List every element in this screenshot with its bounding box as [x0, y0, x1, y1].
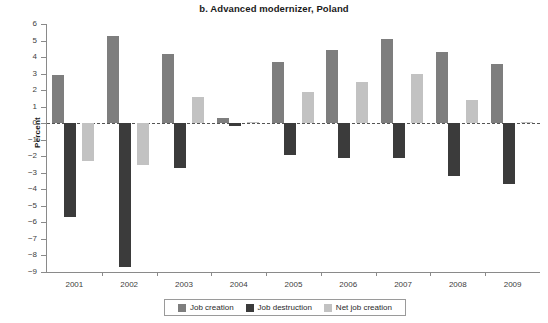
y-axis-tick-label: −6 — [0, 218, 37, 226]
y-axis-tick — [41, 206, 46, 207]
x-axis-tick — [376, 272, 377, 276]
y-axis-tick — [41, 57, 46, 58]
y-axis-tick — [41, 140, 46, 141]
y-axis-tick-label: −7 — [0, 235, 37, 243]
bar-net-2001 — [82, 123, 94, 161]
x-axis-tick-label: 2005 — [269, 280, 319, 289]
y-axis-tick-label: −3 — [0, 169, 37, 177]
y-axis-tick — [41, 255, 46, 256]
legend-label-job-destruction: Job destruction — [258, 303, 312, 312]
y-axis-tick — [41, 239, 46, 240]
y-axis-tick — [41, 74, 46, 75]
bar-destruction-2007 — [393, 123, 405, 158]
chart-title: b. Advanced modernizer, Poland — [0, 3, 548, 15]
bar-net-2003 — [192, 97, 204, 123]
bar-net-2007 — [411, 74, 423, 124]
bar-destruction-2003 — [174, 123, 186, 168]
y-axis-tick — [41, 24, 46, 25]
x-axis-tick-label: 2004 — [214, 280, 264, 289]
y-axis-tick — [41, 222, 46, 223]
y-axis-tick-label: −9 — [0, 268, 37, 276]
chart-figure: b. Advanced modernizer, Poland Percent 6… — [0, 0, 548, 323]
x-axis-tick-label: 2001 — [49, 280, 99, 289]
legend-swatch-icon-job-destruction — [246, 304, 254, 312]
y-axis-tick — [41, 107, 46, 108]
x-axis-tick — [321, 272, 322, 276]
x-axis-line — [46, 272, 540, 273]
bar-destruction-2004 — [229, 123, 241, 126]
bar-creation-2001 — [52, 75, 64, 123]
plot-area — [47, 24, 540, 272]
bar-destruction-2009 — [503, 123, 515, 184]
x-axis-tick — [211, 272, 212, 276]
x-axis-tick-label: 2009 — [488, 280, 538, 289]
bar-creation-2009 — [491, 64, 503, 124]
bar-net-2009 — [521, 122, 533, 123]
bar-net-2005 — [302, 92, 314, 123]
x-axis-tick — [266, 272, 267, 276]
legend-label-job-creation: Job creation — [190, 303, 234, 312]
bar-creation-2007 — [381, 39, 393, 123]
bar-net-2006 — [356, 82, 368, 123]
legend-swatch-icon-job-creation — [178, 304, 186, 312]
legend-swatch-icon-net-job-creation — [324, 304, 332, 312]
y-axis-tick — [41, 189, 46, 190]
bar-creation-2006 — [326, 50, 338, 123]
legend-item-job-destruction: Job destruction — [246, 303, 312, 312]
y-axis-tick — [41, 173, 46, 174]
bar-net-2002 — [137, 123, 149, 164]
y-axis-tick — [41, 123, 46, 124]
x-axis-tick-label: 2008 — [433, 280, 483, 289]
x-axis-tick-label: 2006 — [323, 280, 373, 289]
bar-net-2004 — [247, 122, 259, 124]
y-axis-tick — [41, 90, 46, 91]
x-axis-tick — [157, 272, 158, 276]
bar-creation-2003 — [162, 54, 174, 123]
y-axis-tick-label: 4 — [0, 53, 37, 61]
bar-destruction-2001 — [64, 123, 76, 217]
y-axis-tick-label: 1 — [0, 103, 37, 111]
bar-creation-2002 — [107, 36, 119, 124]
y-axis-tick-label: 5 — [0, 37, 37, 45]
bar-destruction-2002 — [119, 123, 131, 267]
y-axis-tick-label: −8 — [0, 251, 37, 259]
legend-label-net-job-creation: Net job creation — [336, 303, 392, 312]
y-axis-tick-label: −5 — [0, 202, 37, 210]
y-axis-tick-label: 3 — [0, 70, 37, 78]
y-axis-tick-label: 0 — [0, 119, 37, 127]
chart-legend: Job creation Job destruction Net job cre… — [164, 299, 406, 316]
y-axis-tick — [41, 41, 46, 42]
x-axis-tick — [485, 272, 486, 276]
x-axis-tick — [430, 272, 431, 276]
legend-item-net-job-creation: Net job creation — [324, 303, 392, 312]
x-axis-tick-label: 2003 — [159, 280, 209, 289]
bar-destruction-2008 — [448, 123, 460, 176]
x-axis-tick-label: 2007 — [378, 280, 428, 289]
y-axis-tick — [41, 272, 46, 273]
bar-creation-2004 — [217, 118, 229, 123]
y-axis-tick-label: 2 — [0, 86, 37, 94]
legend-item-job-creation: Job creation — [178, 303, 234, 312]
y-axis-tick-label: 6 — [0, 20, 37, 28]
bar-net-2008 — [466, 100, 478, 123]
bar-creation-2005 — [272, 62, 284, 123]
bar-destruction-2005 — [284, 123, 296, 154]
y-axis-tick-label: −2 — [0, 152, 37, 160]
y-axis-tick-label: −4 — [0, 185, 37, 193]
x-axis-tick-label: 2002 — [104, 280, 154, 289]
y-axis-tick-label: −1 — [0, 136, 37, 144]
bar-creation-2008 — [436, 52, 448, 123]
y-axis-tick — [41, 156, 46, 157]
bar-destruction-2006 — [338, 123, 350, 158]
x-axis-tick — [102, 272, 103, 276]
